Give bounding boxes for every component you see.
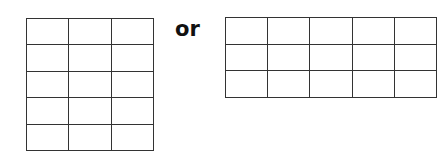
- grid-cell: [310, 18, 352, 45]
- grid-row: [27, 71, 154, 97]
- grid-row: [27, 45, 154, 71]
- grid-cell: [27, 71, 69, 97]
- grid-cell: [394, 18, 436, 45]
- grid-cell: [69, 124, 111, 150]
- grid-cell: [310, 44, 352, 71]
- grid-cell: [268, 71, 310, 98]
- grid-cell: [111, 98, 153, 124]
- grid-cell: [27, 124, 69, 150]
- grid-cell: [111, 19, 153, 45]
- grid-cell: [111, 71, 153, 97]
- grid-5x3: [26, 18, 154, 151]
- grid-cell: [111, 124, 153, 150]
- grid-cell: [268, 44, 310, 71]
- grid-row: [226, 71, 437, 98]
- grid-3x5: [225, 17, 437, 98]
- grid-cell: [352, 44, 394, 71]
- grid-cell: [310, 71, 352, 98]
- grid-row: [27, 124, 154, 150]
- grid-cell: [111, 45, 153, 71]
- grid-cell: [226, 18, 268, 45]
- grid-cell: [352, 18, 394, 45]
- grid-cell: [352, 71, 394, 98]
- grid-cell: [69, 71, 111, 97]
- grid-cell: [27, 19, 69, 45]
- grid-cell: [69, 45, 111, 71]
- grid-cell: [69, 98, 111, 124]
- grid-cell: [268, 18, 310, 45]
- grid-cell: [69, 19, 111, 45]
- grid-cell: [394, 71, 436, 98]
- grid-row: [226, 18, 437, 45]
- or-label: or: [175, 17, 200, 41]
- grid-cell: [27, 45, 69, 71]
- grid-row: [27, 19, 154, 45]
- grid-row: [27, 98, 154, 124]
- grid-cell: [27, 98, 69, 124]
- grid-row: [226, 44, 437, 71]
- grid-cell: [394, 44, 436, 71]
- grid-cell: [226, 44, 268, 71]
- grid-cell: [226, 71, 268, 98]
